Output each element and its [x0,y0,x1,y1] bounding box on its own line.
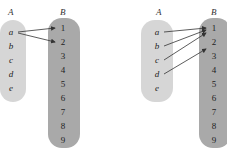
mapping-diagram-2: A B a b c d e 1 2 3 4 5 6 7 8 9 [113,0,226,151]
mapping-diagram-1: A B a b c d e 1 2 3 4 5 6 7 8 9 [0,0,113,151]
mapping-arrows [0,0,113,151]
mapping-arrows [113,0,227,151]
